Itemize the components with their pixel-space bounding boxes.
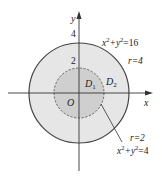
x-axis-label: x: [143, 97, 149, 108]
inner-circle-equation: x2+y2=4: [116, 144, 149, 156]
outer-circle-equation: x2+y2=16: [101, 36, 138, 48]
y-axis-label: y: [70, 13, 76, 24]
outer-radius-label: r=4: [128, 56, 143, 66]
origin-label: O: [67, 97, 74, 108]
x-axis-arrow-icon: [145, 91, 153, 96]
polar-region-diagram: y x O 4 2 D1 D2 x2+y2=16 r=4 r=2 x2+y2=4: [0, 0, 162, 184]
y-tick-2: 2: [71, 56, 76, 66]
y-tick-4: 4: [71, 29, 76, 39]
y-axis-arrow-icon: [77, 11, 82, 19]
inner-radius-label: r=2: [130, 133, 145, 143]
